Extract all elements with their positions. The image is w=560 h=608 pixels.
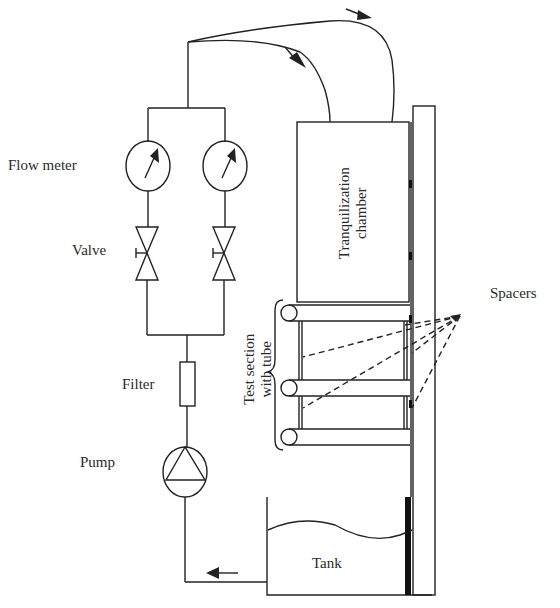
flow-arrow-top	[346, 9, 372, 20]
flow-arrow-return	[206, 567, 238, 579]
test-section-tubes	[281, 305, 410, 445]
return-pipe	[185, 497, 267, 582]
test-section-label: Test section with tube	[241, 309, 276, 429]
tank-icon	[267, 497, 432, 595]
test-section-label-line2: with tube	[258, 309, 275, 429]
test-section-label-line1: Test section	[241, 309, 258, 429]
filter-icon	[180, 362, 195, 406]
flow-loop-diagram	[0, 0, 560, 608]
flow-meter-right-icon	[203, 141, 247, 191]
spacer-leader-lines	[303, 316, 460, 408]
pump-icon	[163, 447, 207, 497]
chamber-label-line2: chamber	[353, 143, 370, 283]
flow-meter-label: Flow meter	[8, 158, 77, 173]
lower-manifold	[147, 280, 224, 362]
valve-left-icon	[136, 227, 158, 280]
chamber-label-line1: Tranquilization	[336, 143, 353, 283]
pump-label: Pump	[80, 455, 115, 470]
upper-manifold	[148, 108, 225, 142]
wall-plate	[411, 106, 435, 595]
tank-label: Tank	[312, 556, 342, 571]
tranquilization-chamber-label: Tranquilization chamber	[336, 143, 371, 283]
spacers-label: Spacers	[490, 286, 537, 301]
filter-label: Filter	[122, 377, 155, 392]
flow-meter-left-icon	[126, 141, 170, 191]
valve-label: Valve	[72, 243, 106, 258]
supply-pipes	[188, 21, 394, 122]
valve-right-icon	[213, 227, 235, 280]
